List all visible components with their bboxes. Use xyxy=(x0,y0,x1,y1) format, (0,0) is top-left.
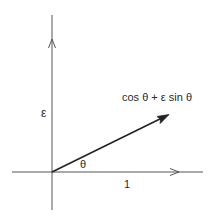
vector-label: cos θ + ε sin θ xyxy=(122,91,192,103)
unit-label: 1 xyxy=(124,178,130,190)
dual-number-diagram: ε cos θ + ε sin θ θ 1 xyxy=(0,0,224,220)
vertical-axis-label: ε xyxy=(41,106,47,120)
vector-line xyxy=(52,116,166,172)
angle-label: θ xyxy=(80,158,86,170)
